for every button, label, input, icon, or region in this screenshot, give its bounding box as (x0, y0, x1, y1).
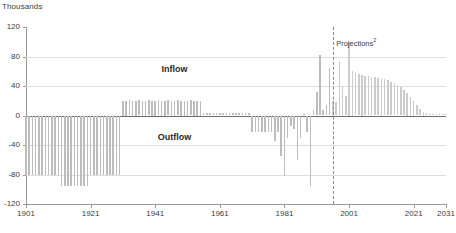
x-tick (220, 204, 221, 208)
bar (193, 101, 195, 116)
bar (174, 101, 176, 116)
x-tick (414, 204, 415, 208)
bar (177, 100, 179, 115)
bar (116, 116, 118, 175)
bar (310, 116, 312, 186)
y-tick-label: -40 (0, 140, 20, 149)
bar (129, 100, 131, 115)
bar (67, 116, 69, 186)
bar (371, 77, 373, 115)
bar (274, 116, 276, 142)
x-tick-label: 2001 (340, 209, 358, 218)
x-tick-label: 1941 (146, 209, 164, 218)
bar (419, 109, 421, 116)
bar (100, 116, 102, 175)
x-tick (349, 204, 350, 208)
bar (445, 114, 447, 115)
bar (187, 101, 189, 116)
bar (429, 114, 431, 115)
bar (213, 113, 215, 115)
x-tick-label: 2031 (437, 209, 455, 218)
x-tick (26, 204, 27, 208)
bar (258, 116, 260, 132)
bar (348, 42, 350, 116)
bar (93, 116, 95, 175)
bar (74, 116, 76, 186)
bar (287, 116, 289, 138)
bar (196, 101, 198, 116)
bar (45, 116, 47, 175)
bar (106, 116, 108, 175)
bar (284, 116, 286, 176)
bar (390, 82, 392, 116)
bar (255, 116, 257, 132)
bar (35, 116, 37, 176)
bar (32, 116, 34, 175)
bar (61, 116, 63, 186)
bar (410, 97, 412, 115)
bar (297, 116, 299, 160)
bar (339, 61, 341, 116)
bar (271, 116, 273, 132)
x-tick-label: 1961 (211, 209, 229, 218)
bar (277, 116, 279, 132)
bar (342, 86, 344, 116)
bar (377, 78, 379, 116)
bar (28, 116, 30, 175)
x-tick-label: 1921 (82, 209, 100, 218)
x-axis-line (26, 204, 446, 205)
bar (41, 116, 43, 175)
bar (38, 116, 40, 176)
y-tick-label: -120 (0, 199, 20, 208)
bar (132, 101, 134, 116)
bar (109, 116, 111, 175)
bar (300, 116, 302, 138)
bar (119, 116, 121, 175)
bar (303, 114, 305, 115)
bar (293, 116, 295, 129)
bar (190, 100, 192, 115)
bar (364, 76, 366, 116)
bar (358, 74, 360, 115)
bar (242, 113, 244, 115)
bar (319, 55, 321, 115)
bar (368, 76, 370, 115)
bar (164, 101, 166, 116)
bar (209, 113, 211, 115)
bar (232, 113, 234, 115)
bar (184, 101, 186, 116)
bar (96, 116, 98, 175)
bar (171, 101, 173, 116)
x-tick (446, 204, 447, 208)
bar (264, 116, 266, 132)
bar (64, 116, 66, 186)
y-tick-label: 40 (0, 81, 20, 90)
bar (216, 113, 218, 115)
bar (206, 113, 208, 115)
bar (345, 96, 347, 115)
bar (222, 113, 224, 115)
bar (313, 110, 315, 116)
bar (238, 113, 240, 115)
bar (426, 113, 428, 115)
bar (403, 90, 405, 115)
bar (200, 101, 202, 116)
y-tick-label: 80 (0, 52, 20, 61)
bar (423, 112, 425, 116)
bar (290, 116, 292, 126)
x-tick-label: 1981 (276, 209, 294, 218)
bar (161, 101, 163, 116)
bar (226, 113, 228, 115)
bar (235, 113, 237, 115)
bar (70, 116, 72, 187)
bar (397, 85, 399, 115)
x-tick (284, 204, 285, 208)
bar (394, 83, 396, 115)
bar (145, 101, 147, 116)
migration-bar-chart: Thousands 12080400-40-80-120 19011921194… (0, 0, 456, 233)
x-tick-label: 1901 (17, 209, 35, 218)
bar (219, 113, 221, 115)
bar (280, 116, 282, 157)
bar (413, 101, 415, 116)
series-label-inflow: Inflow (162, 64, 188, 74)
